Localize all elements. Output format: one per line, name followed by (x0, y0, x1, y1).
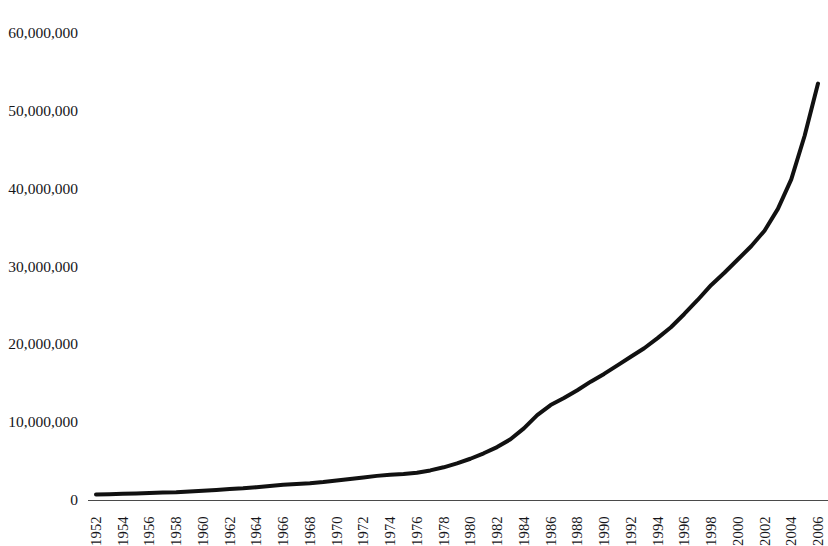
chart-container: 010,000,00020,000,00030,000,00040,000,00… (0, 0, 828, 546)
x-axis-tick-label: 1996 (677, 503, 691, 546)
x-axis-tick-label: 1982 (490, 503, 504, 546)
x-axis-tick-label: 1962 (223, 503, 237, 546)
x-axis-tick-label: 2002 (758, 503, 772, 546)
data-line-svg (88, 20, 828, 501)
x-axis-tick-label: 1984 (517, 503, 531, 546)
x-axis-tick-label: 1976 (410, 503, 424, 546)
y-axis-tick-label: 10,000,000 (0, 414, 78, 430)
y-axis-tick-label: 60,000,000 (0, 25, 78, 41)
x-axis-line (88, 500, 828, 501)
x-axis-tick-label: 1952 (89, 503, 103, 546)
x-axis-tick-label: 1990 (597, 503, 611, 546)
x-axis-tick-label: 1960 (196, 503, 210, 546)
data-series-line (96, 84, 818, 495)
x-axis-tick-label: 1964 (249, 503, 263, 546)
x-axis-tick-label: 2006 (811, 503, 825, 546)
x-axis-tick-label: 1970 (330, 503, 344, 546)
x-axis-tick-label: 1978 (437, 503, 451, 546)
x-axis-tick-label: 1980 (463, 503, 477, 546)
x-axis-tick-label: 1974 (383, 503, 397, 546)
x-axis-tick-label: 1968 (303, 503, 317, 546)
y-axis-tick-label: 50,000,000 (0, 103, 78, 119)
y-axis-tick-label: 20,000,000 (0, 336, 78, 352)
chart-title-cropped (260, 0, 580, 6)
y-axis-tick-label: 40,000,000 (0, 181, 78, 197)
x-axis-tick-label: 1956 (142, 503, 156, 546)
x-axis-tick-label: 1988 (570, 503, 584, 546)
x-axis-tick-label: 1958 (169, 503, 183, 546)
x-axis-tick-label: 2004 (784, 503, 798, 546)
x-axis-tick-label: 1994 (651, 503, 665, 546)
x-axis-tick-label: 1998 (704, 503, 718, 546)
x-axis-tick-label: 1972 (356, 503, 370, 546)
x-axis-labels: 1952195419561958196019621964196619681970… (0, 503, 828, 546)
x-axis-tick-label: 1966 (276, 503, 290, 546)
y-axis-labels: 010,000,00020,000,00030,000,00040,000,00… (0, 0, 86, 546)
x-axis-tick-label: 1986 (544, 503, 558, 546)
y-axis-tick-label: 30,000,000 (0, 259, 78, 275)
x-axis-tick-label: 1954 (116, 503, 130, 546)
x-axis-tick-label: 2000 (731, 503, 745, 546)
plot-area (88, 20, 828, 501)
x-axis-tick-label: 1992 (624, 503, 638, 546)
